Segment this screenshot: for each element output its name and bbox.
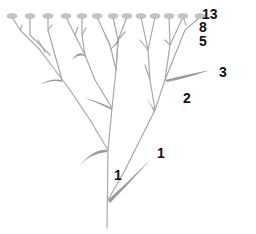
label-1-left: 1	[114, 168, 122, 182]
flower-heads	[7, 14, 205, 19]
label-2: 2	[183, 91, 191, 105]
left-branch	[12, 17, 108, 150]
sneezewort-figure: 13 8 5 3 2 1 1	[0, 0, 256, 234]
label-5: 5	[199, 34, 207, 48]
label-3: 3	[219, 65, 227, 79]
plant-drawing	[0, 0, 256, 234]
label-8: 8	[199, 20, 207, 34]
label-1-right: 1	[157, 146, 165, 160]
leaves	[40, 40, 210, 203]
